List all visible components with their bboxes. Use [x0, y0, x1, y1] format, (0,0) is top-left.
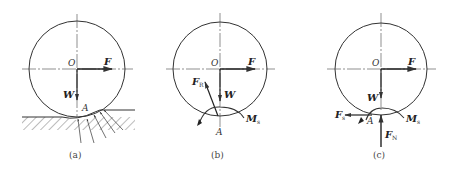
caption-a: (a) — [69, 150, 81, 160]
label-force-f: F — [103, 56, 112, 67]
label-friction-fs: Fs — [334, 109, 345, 121]
caption-c: (c) — [373, 150, 385, 160]
moment-ms-arrowhead — [358, 117, 364, 124]
label-weight-w: W — [63, 89, 76, 100]
moment-ms-arrowhead — [197, 119, 202, 126]
moment-ms-arc — [199, 107, 244, 124]
label-contact-a: A — [81, 103, 89, 113]
panel-b: O F W FR Ms A (b) — [166, 13, 275, 160]
rolling-resistance-diagram: O F W A (a) O F W FR Ms A (b) — [0, 0, 449, 176]
label-contact-a: A — [366, 116, 374, 126]
label-weight-w: W — [367, 92, 380, 103]
label-force-f: F — [407, 56, 416, 67]
label-moment-ms: Ms — [245, 113, 260, 125]
label-center-o: O — [372, 58, 380, 68]
label-force-f: F — [247, 56, 256, 67]
label-moment-ms: Ms — [405, 113, 420, 125]
label-center-o: O — [68, 58, 76, 68]
panel-a: O F W A (a) — [22, 14, 135, 160]
label-center-o: O — [211, 58, 219, 68]
label-resultant-fr: FR — [191, 76, 204, 88]
label-weight-w: W — [224, 89, 237, 100]
panel-c: O F W Fs A Ms FN (c) — [327, 13, 436, 160]
caption-b: (b) — [211, 150, 224, 160]
label-contact-a: A — [215, 127, 223, 137]
label-normal-fn: FN — [384, 129, 397, 141]
